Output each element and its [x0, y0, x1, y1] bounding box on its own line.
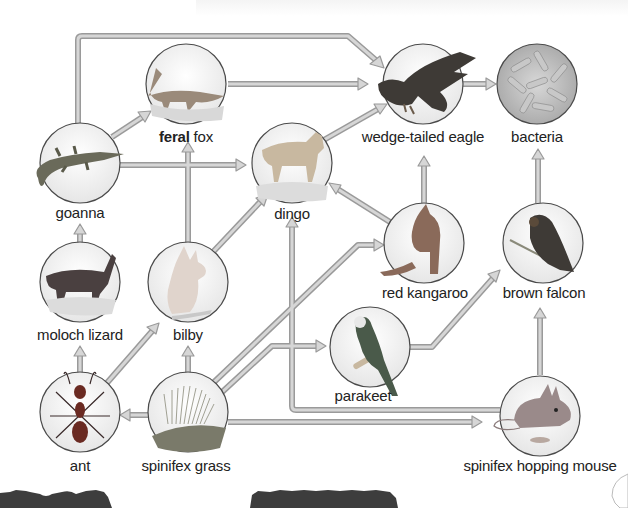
- label-bilby: bilby: [173, 326, 203, 343]
- food-web-diagram: [0, 0, 628, 508]
- label-red-kangaroo: red kangaroo: [382, 284, 468, 301]
- arrowhead-eagle-left: [358, 78, 368, 90]
- arrowhead-moloch: [74, 346, 86, 356]
- label-ant: ant: [70, 457, 90, 474]
- arrowhead-falcon-bottom: [534, 308, 546, 318]
- label-feral-fox: feral fox: [159, 128, 213, 145]
- arrowhead-ant: [120, 409, 130, 421]
- label-parakeet: parakeet: [335, 387, 392, 404]
- arrowhead-goanna: [74, 224, 86, 234]
- label-bacteria: bacteria: [511, 128, 563, 145]
- bottom-bar-center: [250, 490, 398, 508]
- label-goanna: goanna: [56, 204, 105, 221]
- label-spinifex-hopping-mouse: spinifex hopping mouse: [463, 457, 616, 474]
- node-bilby[interactable]: [148, 242, 228, 322]
- label-brown-falcon: brown falcon: [503, 284, 586, 301]
- label-spinifex-grass: spinifex grass: [142, 457, 231, 474]
- organism-nodes: [37, 44, 584, 456]
- arrowhead-bacteria: [486, 78, 496, 90]
- arrowhead-bacteria-bottom: [532, 149, 544, 159]
- label-dingo: dingo: [274, 205, 310, 222]
- node-moloch-lizard[interactable]: [40, 242, 120, 322]
- node-feral-fox[interactable]: [146, 44, 226, 124]
- node-bacteria[interactable]: [497, 44, 577, 124]
- node-parakeet[interactable]: [330, 307, 410, 396]
- node-dingo[interactable]: [252, 123, 332, 203]
- arrowhead-bilby-bottom: [182, 346, 194, 356]
- arrowhead-kangaroo: [374, 239, 384, 251]
- arrowheads: [74, 56, 546, 428]
- node-ant[interactable]: [40, 372, 120, 452]
- node-brown-falcon[interactable]: [503, 203, 583, 283]
- label-wedge-tailed-eagle: wedge-tailed eagle: [362, 128, 484, 145]
- node-spinifex-grass[interactable]: [148, 372, 228, 452]
- node-wedge-tailed-eagle[interactable]: [378, 44, 476, 124]
- bottom-decoration: [0, 490, 398, 508]
- arrowhead-parakeet: [316, 340, 326, 352]
- label-moloch-lizard: moloch lizard: [37, 326, 123, 343]
- arrow-grass-to-parakeet: [220, 346, 318, 394]
- next-page-curl: [612, 474, 628, 508]
- node-red-kangaroo[interactable]: [380, 203, 464, 283]
- arrowhead-mouse: [472, 416, 482, 428]
- arrowhead-eagle-bottom: [418, 156, 430, 166]
- arrowhead-dingo-left: [236, 159, 246, 171]
- node-spinifex-hopping-mouse[interactable]: [494, 376, 580, 456]
- bottom-bar-left: [0, 490, 112, 508]
